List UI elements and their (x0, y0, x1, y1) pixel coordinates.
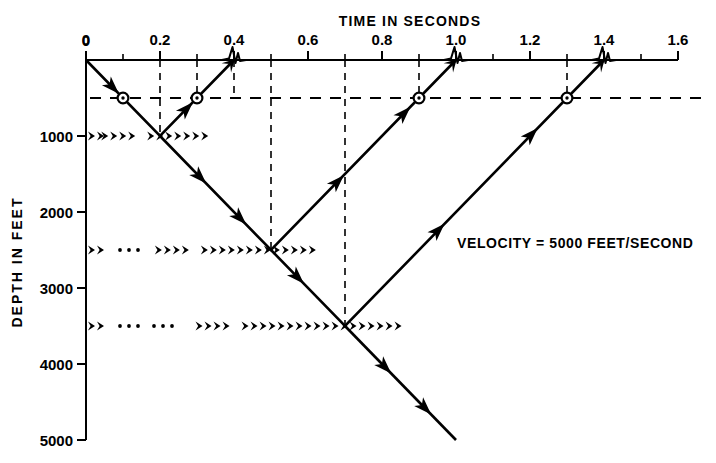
receiver-dot (121, 96, 124, 99)
reflector-chevron (88, 245, 95, 254)
reflector-chevron (386, 321, 393, 330)
reflector-chevron (350, 321, 357, 330)
reflector-chevron (97, 245, 104, 254)
reflector-dot (136, 248, 140, 252)
reflector-chevron (255, 245, 262, 254)
x-tick-label: 0.8 (372, 31, 393, 48)
reflector-chevron (214, 321, 221, 330)
reflector-chevron (237, 245, 244, 254)
reflector (88, 131, 208, 140)
receiver-marker (192, 93, 203, 104)
reflector-chevron (242, 321, 249, 330)
x-tick-label: 1.4 (594, 31, 616, 48)
receiver-dot (565, 96, 568, 99)
reflector-chevron (300, 245, 307, 254)
reflector-dot (136, 324, 140, 328)
reflector-chevron (97, 321, 104, 330)
y-tick-label: 5000 (40, 432, 73, 449)
reflector-chevron (192, 131, 199, 140)
reflector-chevron (359, 321, 366, 330)
x-tick-label: 0.6 (298, 31, 319, 48)
receiver-dot (417, 96, 420, 99)
reflector-chevron (296, 321, 303, 330)
ray-line (345, 326, 456, 440)
reflector-chevron (165, 131, 172, 140)
reflector-chevron (88, 321, 95, 330)
reflector-chevron (368, 321, 375, 330)
reflector-chevron (251, 321, 258, 330)
ray-path (160, 55, 461, 250)
reflector-chevron (278, 321, 285, 330)
reflector-chevron (323, 321, 330, 330)
reflector-chevron (332, 321, 339, 330)
y-axis-tick-labels: 010002000300040005000 (40, 32, 91, 449)
dashed-time-gridlines (160, 60, 567, 326)
ray-line (160, 60, 456, 250)
reflector-chevron (173, 245, 180, 254)
reflector-dot (170, 324, 174, 328)
reflector-chevron (128, 131, 135, 140)
receiver-marker (562, 93, 573, 104)
y-tick-label: 1000 (40, 128, 73, 145)
y-tick-label: 3000 (40, 280, 73, 297)
x-axis-title: TIME IN SECONDS (339, 13, 481, 29)
reflector-chevron (201, 131, 208, 140)
reflector-dot (127, 248, 131, 252)
y-tick-label: 2000 (40, 204, 73, 221)
reflector-chevron (309, 245, 316, 254)
reflector-chevron (210, 245, 217, 254)
x-tick-label: 1.0 (446, 31, 467, 48)
ray-path (271, 55, 609, 326)
y-tick-label: 4000 (40, 356, 73, 373)
reflector-chevron (196, 321, 203, 330)
reflector-chevron (260, 321, 267, 330)
ray-path-diagram: 00.20.40.60.81.01.21.41.6 01000200030004… (0, 0, 716, 463)
ray-path (345, 326, 456, 440)
reflector-chevron (246, 245, 253, 254)
reflector-dot (127, 324, 131, 328)
reflector-chevron (174, 131, 181, 140)
reflector-chevron (223, 321, 230, 330)
reflector-chevron (219, 245, 226, 254)
x-axis-ticks (86, 51, 678, 60)
x-tick-label: 0.4 (224, 31, 246, 48)
reflector-chevron (119, 131, 126, 140)
reflector (88, 245, 316, 254)
reflector-chevron (291, 245, 298, 254)
x-axis-tick-labels: 00.20.40.60.81.01.21.41.6 (82, 31, 689, 48)
reflector-chevron (269, 321, 276, 330)
reflector-dot (118, 324, 122, 328)
reflector-chevron (377, 321, 384, 330)
reflector-chevron (282, 245, 289, 254)
receiver-dot (195, 96, 198, 99)
reflector-chevron (182, 245, 189, 254)
reflector-chevron (314, 321, 321, 330)
x-tick-label: 1.2 (520, 31, 541, 48)
receiver-marker (414, 93, 425, 104)
reflector-chevron (305, 321, 312, 330)
reflector-chevron (395, 321, 402, 330)
y-tick-label: 0 (82, 32, 90, 49)
y-axis-ticks (77, 136, 86, 440)
x-tick-label: 1.6 (668, 31, 689, 48)
reflector-chevron (287, 321, 294, 330)
reflector-chevron (147, 131, 154, 140)
reflector-dot (118, 248, 122, 252)
figure-canvas: 00.20.40.60.81.01.21.41.6 01000200030004… (0, 0, 716, 463)
velocity-annotation: VELOCITY = 5000 FEET/SECOND (457, 235, 694, 251)
ray-path (86, 55, 239, 136)
reflector-chevron (155, 245, 162, 254)
reflector-chevron (110, 131, 117, 140)
reflector-chevron (88, 131, 95, 140)
reflector-dot (152, 324, 156, 328)
reflector-chevron (228, 245, 235, 254)
receiver-marker (118, 93, 129, 104)
reflector-chevron (201, 245, 208, 254)
reflector-chevron (183, 131, 190, 140)
y-axis-title: DEPTH IN FEET (9, 196, 25, 327)
reflector-dot (161, 324, 165, 328)
reflector-chevron (205, 321, 212, 330)
reflector-interfaces (88, 131, 402, 330)
ray-line (271, 60, 604, 326)
reflector (88, 321, 402, 330)
